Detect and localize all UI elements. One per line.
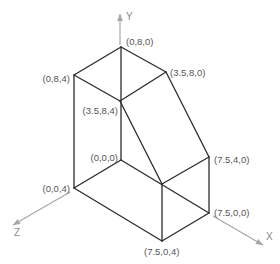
axis-y-label: Y [126,11,133,22]
edge-v7544-v7540 [162,157,209,184]
vertex-label-v7500: (7.5,0,0) [214,207,249,218]
vertex-label-v084: (0,8,4) [43,73,70,84]
vertex-label-v000: (0,0,0) [91,152,118,163]
vertex-label-v7540: (7.5,4,0) [214,154,249,165]
edge-v080-v084 [74,47,121,75]
edge-v3580-v7540 [166,72,209,157]
axis-x-label: X [266,231,273,242]
vertex-label-v3580: (3.5,8,0) [170,67,205,78]
edge-v080-v3580 [121,47,166,72]
axis-x-line [213,216,263,245]
vertex-label-v7504: (7.5,0,4) [144,246,179,257]
vertex-label-v3584: (3.5,8,4) [83,105,118,116]
edge-v004-v7504 [74,188,162,241]
edge-v084-v3584 [74,75,120,101]
axis-z-line [13,192,70,225]
isometric-solid-diagram: YZX (0,8,0)(0,8,4)(3.5,8,0)(3.5,8,4)(0,0… [0,0,280,264]
edge-v3584-v3580 [120,72,166,101]
vertex-label-v004: (0,0,4) [43,183,70,194]
axis-y-arrow-icon [117,14,123,21]
edge-v000-v7500 [121,160,209,213]
edge-v7504-v7500 [162,213,209,241]
axis-z-label: Z [14,227,20,238]
edge-v000-v004 [74,160,121,188]
vertex-label-v080: (0,8,0) [126,36,153,47]
